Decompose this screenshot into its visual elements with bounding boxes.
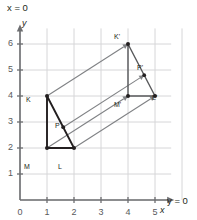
- point-label-m-prime: M': [114, 101, 121, 108]
- x-tick-label-3: 3: [99, 208, 104, 217]
- point-label-k-prime: K': [114, 33, 120, 40]
- grid-lines: [20, 28, 182, 200]
- y-axis-label: y: [22, 19, 27, 28]
- point-label-p: P: [55, 122, 60, 129]
- x-tick-label-2: 2: [72, 208, 77, 217]
- y-tick-label-1: 1: [8, 169, 13, 178]
- point-label-m: M: [24, 163, 30, 170]
- point-label-l-prime: L': [152, 94, 157, 101]
- x-axis-label: x: [160, 206, 165, 215]
- x-tick-label-5: 5: [153, 208, 158, 217]
- translation-diagram: x = 0 y = 0 y x 012345123456 KLMPK'L'M'P…: [0, 0, 197, 220]
- y-tick-label-4: 4: [8, 91, 13, 100]
- coordinate-plane-svg: [0, 0, 197, 220]
- y-tick-label-6: 6: [8, 39, 13, 48]
- point-label-l: L: [58, 163, 62, 170]
- y-tick-label-2: 2: [8, 143, 13, 152]
- y-tick-label-3: 3: [8, 117, 13, 126]
- y-tick-label-5: 5: [8, 65, 13, 74]
- x-tick-label-0: 0: [18, 208, 23, 217]
- point-label-k: K: [26, 96, 31, 103]
- x-equals-zero-label: x = 0: [7, 3, 28, 13]
- axis-lines: [17, 24, 174, 203]
- point-label-p-prime: P': [137, 64, 143, 71]
- x-tick-label-4: 4: [126, 208, 131, 217]
- y-equals-zero-label: y = 0: [167, 196, 188, 206]
- x-tick-label-1: 1: [45, 208, 50, 217]
